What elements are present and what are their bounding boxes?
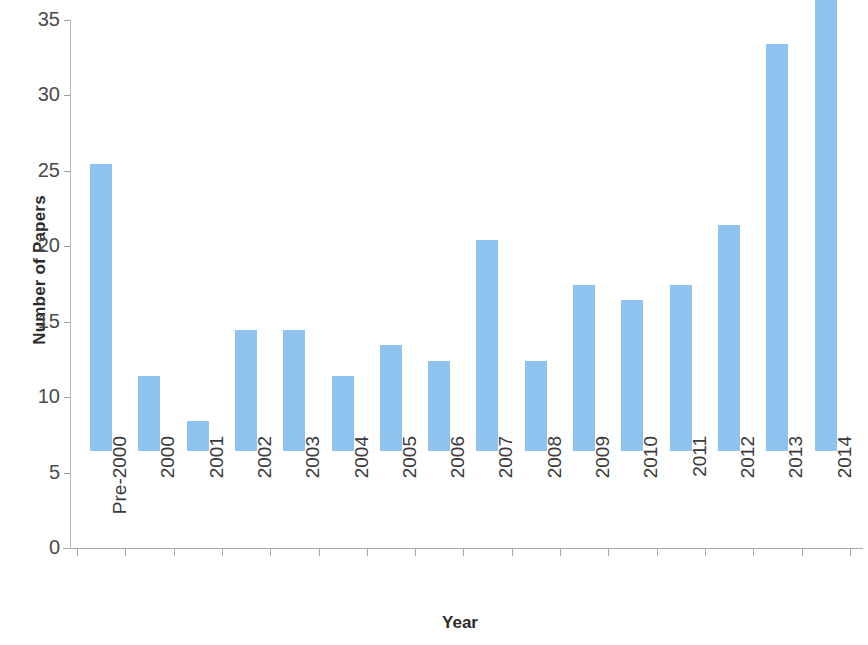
- x-axis-tick-label: 2006: [447, 436, 469, 556]
- x-axis-tick-mark: [463, 549, 464, 556]
- x-axis-tick-mark: [802, 549, 803, 556]
- x-axis-tick-mark: [174, 549, 175, 556]
- x-axis-tick-label: 2001: [206, 436, 228, 556]
- bar: [235, 330, 257, 451]
- x-axis-tick-label: 2013: [785, 436, 807, 556]
- x-axis-tick-mark: [319, 549, 320, 556]
- x-axis-tick-mark: [850, 549, 851, 556]
- bar: [476, 240, 498, 451]
- x-axis-tick-label: 2003: [302, 436, 324, 556]
- x-axis-tick-label: 2012: [737, 436, 759, 556]
- x-axis-tick-mark: [415, 549, 416, 556]
- bar: [573, 285, 595, 451]
- bar: [90, 164, 112, 451]
- x-axis-tick-mark: [222, 549, 223, 556]
- bar: [815, 0, 837, 451]
- x-axis-tick-label: 2009: [592, 436, 614, 556]
- x-axis-tick-mark: [512, 549, 513, 556]
- x-axis-tick-mark: [560, 549, 561, 556]
- x-axis-tick-mark: [367, 549, 368, 556]
- x-axis-tick-label: 2005: [399, 436, 421, 556]
- x-axis-tick-label: Pre-2000: [109, 436, 131, 556]
- x-axis-tick-mark: [753, 549, 754, 556]
- x-axis-tick-label: 2014: [834, 436, 856, 556]
- bar: [621, 300, 643, 451]
- x-axis-tick-label: 2007: [495, 436, 517, 556]
- x-axis-tick-mark: [77, 549, 78, 556]
- x-axis-tick-mark: [705, 549, 706, 556]
- chart-figure: Number of Papers 05101520253035 Pre-2000…: [0, 0, 868, 645]
- x-axis-tick-mark: [270, 549, 271, 556]
- x-axis-tick-mark: [657, 549, 658, 556]
- x-axis-tick-label: 2011: [689, 436, 711, 556]
- bar: [718, 225, 740, 451]
- x-axis-tick-label: 2008: [544, 436, 566, 556]
- bar: [283, 330, 305, 451]
- x-axis-tick-label: 2000: [157, 436, 179, 556]
- bar: [670, 285, 692, 451]
- bar: [766, 44, 788, 451]
- x-axis-tick-mark: [125, 549, 126, 556]
- x-axis-title: Year: [405, 613, 515, 633]
- x-axis-tick-label: 2004: [351, 436, 373, 556]
- x-axis-tick-mark: [608, 549, 609, 556]
- x-axis-tick-label: 2010: [640, 436, 662, 556]
- x-axis-tick-label: 2002: [254, 436, 276, 556]
